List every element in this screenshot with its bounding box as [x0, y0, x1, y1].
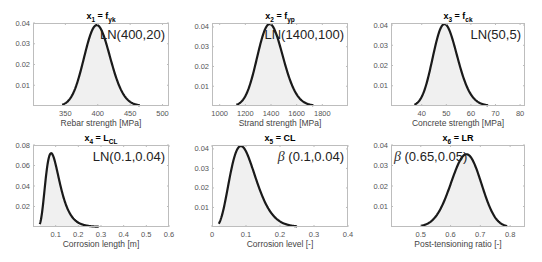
- x-tick-label: 0.5: [141, 230, 151, 239]
- subplot-title: x3 = fck: [443, 11, 473, 23]
- x-axis-label: Rebar strength [MPa]: [61, 118, 142, 128]
- y-tick-label: 0.03: [15, 39, 30, 48]
- y-tick-label: 0.01: [194, 82, 209, 91]
- x-tick-label: 70: [491, 109, 499, 118]
- y-tick-label: 0.01: [15, 81, 30, 90]
- x-tick-label: 350: [59, 109, 72, 118]
- x-axis-label: Strand strength [MPa]: [239, 118, 322, 128]
- x-tick-label: 0.4: [343, 230, 353, 239]
- distribution-figure: 0.010.020.030.04350400450500Rebar streng…: [0, 0, 542, 262]
- x-tick-label: 50: [442, 109, 450, 118]
- y-tick-label: 0.06: [15, 161, 30, 170]
- x-tick-label: 0.1: [50, 230, 60, 239]
- subplot-6: 0.010.020.030.040.50.60.70.8Post-tension…: [373, 133, 525, 249]
- x-tick-label: 1800: [314, 109, 331, 118]
- x-tick-label: 500: [156, 109, 169, 118]
- y-tick-label: 0.01: [373, 202, 388, 211]
- subplot-1: 0.010.020.030.04350400450500Rebar streng…: [15, 11, 169, 128]
- distribution-annotation: β (0.65,0.05): [393, 149, 467, 164]
- x-tick-label: 0.7: [475, 230, 485, 239]
- y-tick-label: 0.04: [373, 141, 388, 150]
- y-tick-label: 0.04: [15, 19, 30, 28]
- x-tick-label: 0.6: [164, 230, 174, 239]
- x-tick-label: 0.4: [118, 230, 128, 239]
- x-axis-label: Corrosion length [m]: [63, 239, 140, 249]
- y-tick-label: 0.04: [373, 21, 388, 30]
- distribution-annotation: LN(50,5): [470, 27, 521, 42]
- subplot-title: x4 = LCL: [84, 133, 117, 145]
- subplot-title: x6 = LR: [443, 133, 474, 145]
- distribution-annotation: LN(0.1,0.04): [93, 149, 165, 164]
- y-tick-label: 0.02: [194, 183, 209, 192]
- y-tick-label: 0.04: [194, 144, 209, 153]
- y-tick-label: 0.02: [15, 60, 30, 69]
- y-tick-label: 0.03: [373, 161, 388, 170]
- y-tick-label: 0.02: [194, 62, 209, 71]
- x-tick-label: 450: [124, 109, 137, 118]
- x-tick-label: 400: [92, 109, 105, 118]
- subplot-3: 0.010.020.030.044050607080Concrete stren…: [373, 11, 525, 128]
- subplot-5: 0.010.020.030.0400.10.20.30.4Corrosion l…: [194, 133, 353, 249]
- x-axis-label: Concrete strength [MPa]: [412, 118, 504, 128]
- subplot-title: x5 = CL: [265, 133, 296, 145]
- x-tick-label: 60: [467, 109, 475, 118]
- x-tick-label: 1400: [263, 109, 280, 118]
- x-tick-label: 0: [210, 230, 214, 239]
- x-tick-label: 0.5: [416, 230, 426, 239]
- subplot-2: 0.010.020.030.0410001200140016001800Stra…: [194, 11, 348, 128]
- x-tick-label: 0.2: [275, 230, 285, 239]
- y-tick-label: 0.04: [15, 182, 30, 191]
- x-tick-label: 0.3: [96, 230, 106, 239]
- y-tick-label: 0.02: [373, 61, 388, 70]
- y-tick-label: 0.03: [373, 41, 388, 50]
- x-tick-label: 0.1: [241, 230, 251, 239]
- subplot-title: x1 = fyk: [86, 11, 116, 24]
- x-tick-label: 0.8: [505, 230, 515, 239]
- x-tick-label: 0.3: [309, 230, 319, 239]
- y-tick-label: 0.08: [15, 141, 30, 150]
- x-tick-label: 1600: [288, 109, 305, 118]
- y-tick-label: 0.02: [373, 182, 388, 191]
- x-tick-label: 1200: [237, 109, 254, 118]
- x-tick-label: 0.6: [445, 230, 455, 239]
- subplot-title: x2 = fyp: [265, 11, 295, 24]
- y-tick-label: 0.04: [194, 22, 209, 31]
- y-tick-label: 0.02: [15, 202, 30, 211]
- distribution-annotation: LN(1400,100): [265, 27, 345, 42]
- distribution-annotation: LN(400,20): [100, 27, 165, 42]
- x-axis-label: Corrosion level [-]: [247, 239, 314, 249]
- x-tick-label: 0.2: [73, 230, 83, 239]
- x-tick-label: 80: [516, 109, 524, 118]
- y-tick-label: 0.01: [194, 203, 209, 212]
- distribution-annotation: β (0.1,0.04): [277, 149, 344, 164]
- y-tick-label: 0.01: [373, 81, 388, 90]
- x-tick-label: 40: [418, 109, 426, 118]
- subplot-4: 0.020.040.060.080.10.20.30.40.50.6Corros…: [15, 133, 174, 249]
- x-axis-label: Post-tensioning ratio [-]: [414, 239, 501, 249]
- y-tick-label: 0.03: [194, 42, 209, 51]
- y-tick-label: 0.03: [194, 164, 209, 173]
- x-tick-label: 1000: [211, 109, 228, 118]
